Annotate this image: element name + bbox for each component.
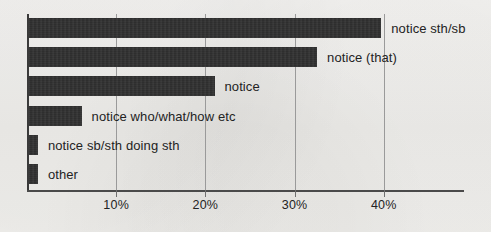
- tick-mark-40: [384, 190, 385, 197]
- x-tick-label: 30%: [282, 198, 308, 212]
- bar-row: notice (that): [29, 47, 466, 67]
- bar-category-label: notice: [225, 79, 260, 94]
- bar: [29, 135, 38, 155]
- bar-row: notice sth/sb: [29, 18, 466, 38]
- bar-category-label: notice who/what/how etc: [92, 108, 236, 123]
- bar-row: other: [29, 164, 466, 184]
- bar-chart: notice sth/sbnotice (that)noticenotice w…: [0, 0, 491, 232]
- bar: [29, 18, 381, 38]
- x-tick-label: 10%: [103, 198, 129, 212]
- bar-category-label: other: [48, 167, 78, 182]
- x-axis-line: [27, 190, 464, 192]
- bar: [29, 76, 215, 96]
- bar: [29, 164, 38, 184]
- bar-category-label: notice sb/sth doing sth: [48, 137, 180, 152]
- bar-category-label: notice (that): [327, 50, 397, 65]
- x-tick-label: 20%: [193, 198, 219, 212]
- tick-mark-30: [295, 190, 296, 197]
- tick-mark-10: [116, 190, 117, 197]
- x-tick-label: 40%: [371, 198, 397, 212]
- bar: [29, 47, 317, 67]
- tick-mark-20: [205, 190, 206, 197]
- plot-area: notice sth/sbnotice (that)noticenotice w…: [27, 14, 464, 192]
- bar-row: notice: [29, 76, 466, 96]
- bar-row: notice who/what/how etc: [29, 106, 466, 126]
- bar-category-label: notice sth/sb: [391, 21, 465, 36]
- bar-row: notice sb/sth doing sth: [29, 135, 466, 155]
- bar: [29, 106, 82, 126]
